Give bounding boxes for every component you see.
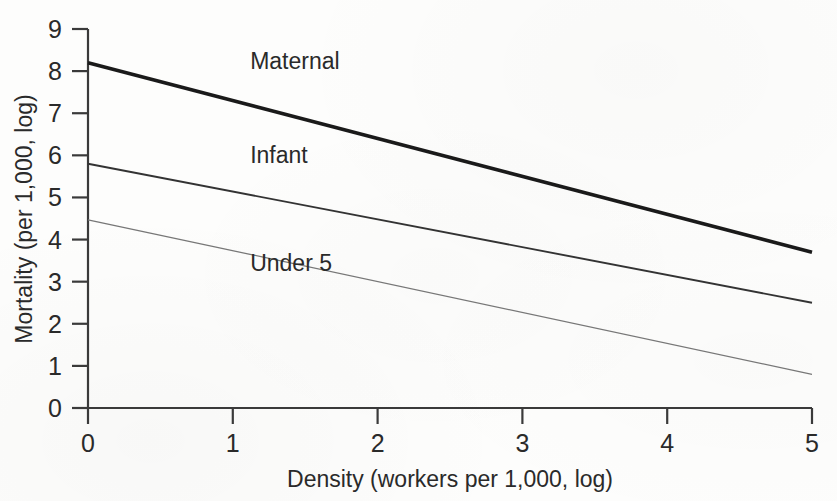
x-tick-label-1: 1 [226, 429, 240, 457]
y-tick-label-0: 0 [48, 394, 62, 422]
y-tick-label-9: 9 [48, 15, 62, 43]
series-line-maternal [88, 63, 812, 253]
y-tick-label-6: 6 [48, 141, 62, 169]
x-tick-label-3: 3 [515, 429, 529, 457]
y-axis-ticks [72, 29, 88, 408]
series-label-maternal: Maternal [250, 48, 339, 74]
y-tick-label-2: 2 [48, 310, 62, 338]
series-label-under-5: Under 5 [250, 250, 332, 276]
x-axis-tick-labels: 012345 [81, 429, 819, 457]
x-axis-title: Density (workers per 1,000, log) [287, 466, 613, 492]
series-line-infant [88, 164, 812, 303]
x-axis-ticks [88, 408, 812, 424]
x-tick-label-4: 4 [660, 429, 674, 457]
x-tick-label-0: 0 [81, 429, 95, 457]
y-tick-label-3: 3 [48, 268, 62, 296]
y-tick-label-4: 4 [48, 226, 62, 254]
y-tick-label-7: 7 [48, 99, 62, 127]
x-tick-label-2: 2 [371, 429, 385, 457]
y-axis-tick-labels: 0123456789 [48, 15, 62, 422]
line-chart: 0123456789 012345 MaternalInfantUnder 5 … [0, 0, 837, 501]
y-tick-label-5: 5 [48, 183, 62, 211]
series-label-infant: Infant [250, 142, 308, 168]
y-axis-title: Mortality (per 1,000, log) [11, 94, 37, 343]
figure-container: 0123456789 012345 MaternalInfantUnder 5 … [0, 0, 837, 501]
x-tick-label-5: 5 [805, 429, 819, 457]
y-tick-label-8: 8 [48, 57, 62, 85]
series-lines [88, 63, 812, 375]
y-tick-label-1: 1 [48, 352, 62, 380]
series-line-under-5 [88, 220, 812, 375]
series-annotations: MaternalInfantUnder 5 [250, 48, 339, 276]
